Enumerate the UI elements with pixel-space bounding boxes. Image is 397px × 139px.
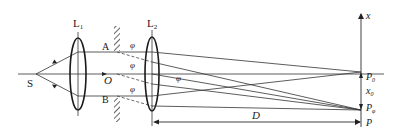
label-angle-right: φ bbox=[176, 73, 181, 83]
optics-diagram: S L1 L2 A B O φ φ φ φ x P0 x0 Pφ P D bbox=[0, 0, 397, 139]
label-center-o: O bbox=[104, 74, 112, 86]
label-pphi: Pφ bbox=[365, 102, 376, 114]
label-p: P bbox=[365, 117, 372, 128]
lens-l2 bbox=[145, 30, 159, 126]
label-lens2: L2 bbox=[147, 17, 158, 31]
label-angle-bottom: φ bbox=[130, 84, 135, 94]
label-x0: x0 bbox=[365, 85, 373, 97]
label-angle-mid: φ bbox=[130, 60, 135, 70]
label-angle-top: φ bbox=[130, 40, 135, 50]
label-source: S bbox=[27, 77, 33, 89]
label-slit-a: A bbox=[102, 41, 110, 52]
label-slit-b: B bbox=[102, 94, 109, 105]
label-distance-d: D bbox=[251, 109, 260, 121]
label-p0: P0 bbox=[365, 71, 375, 83]
label-lens1: L1 bbox=[73, 17, 84, 31]
focused-rays bbox=[152, 52, 361, 110]
label-axis-x: x bbox=[365, 10, 371, 21]
